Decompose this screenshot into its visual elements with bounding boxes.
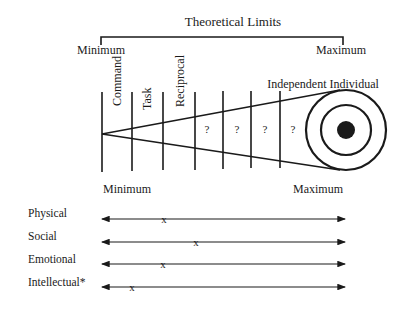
unknown-stage-2: ?	[235, 123, 240, 135]
scale-minimum-label: Minimum	[103, 182, 152, 196]
row-label-intellectual: Intellectual*	[28, 276, 86, 288]
stage-label-task: Task	[140, 88, 154, 111]
stage-dividers	[102, 91, 280, 172]
social-mark: x	[193, 236, 199, 248]
scale-lines	[102, 219, 345, 287]
intellectual-mark: x	[129, 281, 135, 293]
top-maximum-label: Maximum	[316, 43, 367, 57]
scale-maximum-label: Maximum	[293, 182, 344, 196]
unknown-stage-3: ?	[263, 123, 268, 135]
physical-mark: x	[161, 213, 167, 225]
row-label-social: Social	[28, 230, 57, 242]
stage-label-reciprocal: Reciprocal	[173, 54, 187, 107]
top-minimum-label: Minimum	[77, 43, 126, 57]
row-label-emotional: Emotional	[28, 253, 76, 265]
unknown-stage-1: ?	[205, 123, 210, 135]
limits-bracket	[101, 37, 343, 45]
cone	[102, 90, 340, 170]
target-dot	[337, 121, 355, 139]
independent-individual-label: Independent Individual	[267, 77, 379, 91]
diagram: Theoretical Limits Minimum Maximum Comma…	[0, 0, 406, 310]
stage-label-command: Command	[110, 56, 124, 106]
unknown-stage-4: ?	[291, 123, 296, 135]
emotional-mark: x	[160, 258, 166, 270]
row-label-physical: Physical	[28, 207, 67, 220]
theoretical-limits-title: Theoretical Limits	[185, 14, 281, 29]
